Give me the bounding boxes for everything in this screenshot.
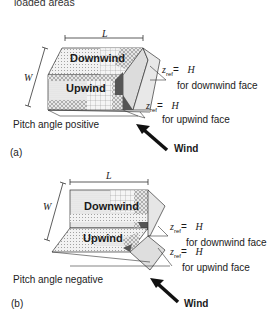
downwind-label-b: Downwind [84,200,139,212]
zref-upwind-desc-a: for upwind face [162,114,230,125]
zref-upwind-a: zref= H [146,100,179,113]
pitch-label-b: Pitch angle negative [13,274,103,285]
upwind-label-a: Upwind [66,82,106,94]
panel-tag-a: (a) [10,147,22,158]
dimension-length-b: L [106,170,112,181]
dimension-length-a: L [102,28,108,39]
wind-label-a: Wind [174,143,198,154]
panel-a-building [25,35,166,118]
figure-caption: loaded areas [14,0,75,8]
dimension-width-a: W [24,72,32,83]
dimension-width-b: W [43,201,51,212]
downwind-label-a: Downwind [70,52,125,64]
zref-upwind-b: zref= H [170,246,203,259]
zref-downwind-desc-a: for downwind face [177,80,258,91]
panel-tag-b: (b) [11,298,23,309]
zref-upwind-desc-b: for upwind face [182,262,250,273]
upwind-label-b: Upwind [83,232,123,244]
wind-arrow-b [150,278,178,302]
wind-arrow-a [136,124,167,150]
zref-downwind-b: zref= H [170,221,203,234]
zref-downwind-a: zref= H [162,64,195,77]
pitch-label-a: Pitch angle positive [13,119,99,130]
panel-b-building [44,179,172,270]
wind-label-b: Wind [184,298,208,309]
